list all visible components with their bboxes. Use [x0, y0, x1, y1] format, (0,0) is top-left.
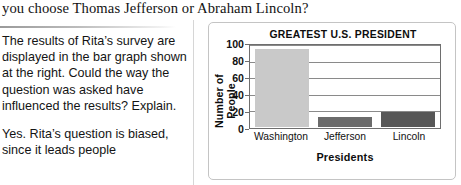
bar-slot: [251, 46, 314, 127]
bar-jefferson: [318, 117, 372, 127]
bars-group: [251, 46, 439, 127]
y-tick-mark: [245, 78, 249, 79]
y-tick-label: 40: [232, 89, 244, 101]
x-tick-label: Washington: [249, 131, 313, 142]
bar-slot: [376, 46, 439, 127]
x-axis-label: Presidents: [249, 151, 441, 163]
plot-area-wrapper: 020406080100: [249, 44, 441, 129]
column-divider-line: [193, 20, 194, 185]
x-tick-label: Jefferson: [313, 131, 377, 142]
bar-slot: [314, 46, 377, 127]
y-tick-label: 80: [232, 55, 244, 67]
x-axis-tick-labels: WashingtonJeffersonLincoln: [249, 131, 441, 142]
top-question-text: you choose Thomas Jefferson or Abraham L…: [2, 0, 457, 17]
left-text-column: The results of Rita’s survey are display…: [2, 33, 188, 158]
x-tick-label: Lincoln: [377, 131, 441, 142]
horizontal-divider-rule: [0, 26, 176, 28]
question-paragraph: The results of Rita’s survey are display…: [2, 33, 188, 114]
y-tick-label: 0: [238, 123, 244, 135]
bar-chart-card: GREATEST U.S. PRESIDENT Number of People…: [208, 22, 456, 180]
y-tick-label: 20: [232, 106, 244, 118]
plot-area: [249, 44, 441, 129]
y-tick-label: 60: [232, 72, 244, 84]
worksheet-page: you choose Thomas Jefferson or Abraham L…: [0, 0, 461, 185]
bar-lincoln: [381, 112, 435, 127]
y-tick-label: 100: [226, 38, 244, 50]
y-tick-mark: [245, 44, 249, 45]
y-tick-mark: [245, 112, 249, 113]
y-tick-mark: [245, 95, 249, 96]
bar-washington: [255, 49, 309, 127]
y-tick-mark: [245, 129, 249, 130]
y-axis-label: Number of People: [213, 58, 237, 144]
chart-title: GREATEST U.S. PRESIDENT: [209, 29, 455, 40]
y-tick-mark: [245, 61, 249, 62]
answer-paragraph: Yes. Rita’s question is biased, since it…: [2, 126, 188, 158]
